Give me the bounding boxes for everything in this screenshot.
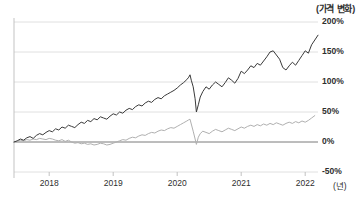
y-tick-label: 200% [322,17,344,26]
y-tick-label: 0% [322,137,334,146]
price-change-chart: (가격 변화) 200%150%100%50%0%-50% 2018201920… [0,0,359,197]
series-dark [14,35,318,142]
y-tick-label: 100% [322,77,344,86]
x-tick-label: 2021 [232,179,251,188]
xaxis-ticks [49,172,305,176]
x-axis-unit-label: (년) [333,179,347,191]
x-tick-label: 2022 [296,179,315,188]
chart-plot-area [0,0,359,197]
x-tick-label: 2020 [168,179,187,188]
dark-series-line [14,35,318,142]
gridlines [14,22,318,172]
y-tick-label: 50% [322,107,339,116]
y-tick-label: 150% [322,47,344,56]
x-tick-label: 2018 [40,179,59,188]
x-tick-label: 2019 [104,179,123,188]
y-tick-label: -50% [322,167,342,176]
